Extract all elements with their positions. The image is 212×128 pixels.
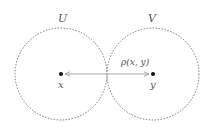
point-y-label: y xyxy=(149,79,156,90)
distance-label: ρ(x, y) xyxy=(120,57,150,67)
point-x-dot xyxy=(59,72,63,76)
set-v-label: V xyxy=(148,12,157,25)
point-x-label: x xyxy=(58,79,64,90)
metric-ball-diagram: U V x y ρ(x, y) xyxy=(0,0,212,128)
point-y-dot xyxy=(151,72,155,76)
set-u-label: U xyxy=(58,12,68,25)
